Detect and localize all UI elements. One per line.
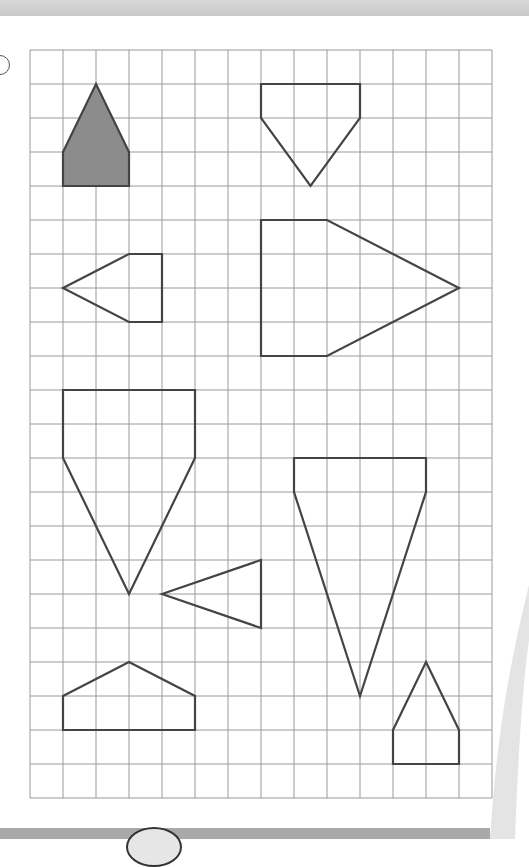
shape-down-pentagon-small	[261, 84, 360, 186]
decorative-swoosh	[490, 585, 529, 839]
shape-shaded-house	[63, 84, 129, 186]
page-bottom-bar	[0, 828, 490, 839]
page-number-circle	[126, 827, 182, 867]
